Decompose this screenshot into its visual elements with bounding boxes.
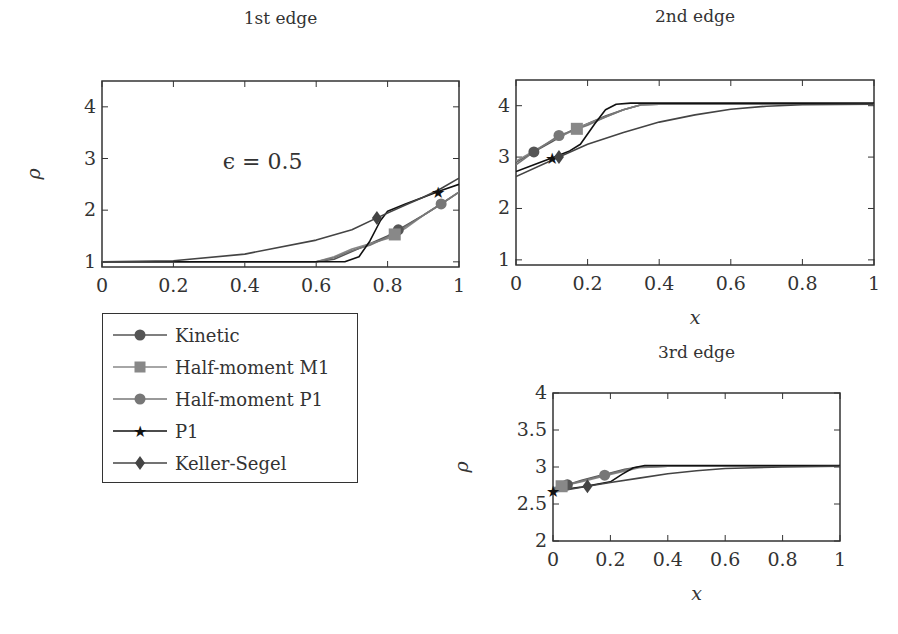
x-tick-label: 0.6	[716, 272, 746, 294]
legend-item-half-moment-p1: Half-moment P1	[111, 386, 323, 412]
x-axis-label: x	[690, 306, 701, 328]
legend-label: Kinetic	[175, 325, 240, 346]
y-tick-label: 4	[498, 94, 510, 116]
y-tick-label: 3.5	[517, 418, 547, 440]
square-marker-icon	[571, 123, 583, 135]
series-line	[553, 466, 840, 489]
series-line	[102, 184, 459, 261]
y-tick-label: 2	[535, 529, 547, 551]
legend: Kinetic Half-moment M1 Half-moment P1 ★ …	[102, 313, 358, 483]
legend-label: Half-moment P1	[175, 389, 323, 410]
x-tick-label: 0.4	[644, 272, 674, 294]
circle-marker-icon	[111, 389, 169, 409]
y-axis-label: ρ	[22, 168, 44, 181]
x-tick-label: 0.4	[653, 548, 683, 570]
y-tick-label: 1	[84, 250, 96, 272]
series-line	[516, 104, 874, 176]
epsilon-annotation: ϵ = 0.5	[223, 149, 303, 174]
x-tick-label: 0.6	[301, 274, 331, 296]
legend-label: P1	[175, 421, 199, 442]
legend-label: Half-moment M1	[175, 357, 329, 378]
x-tick-label: 1	[834, 548, 846, 570]
series-line	[516, 104, 874, 165]
plot-2: 00.20.40.60.8112342nd edgex★	[498, 6, 880, 328]
series-line	[516, 103, 874, 171]
circle-marker-icon	[599, 470, 610, 481]
axes-frame	[516, 80, 874, 265]
star-marker-icon: ★	[111, 421, 169, 441]
y-tick-label: 2.5	[517, 492, 547, 514]
series-line	[553, 466, 840, 492]
legend-item-kinetic: Kinetic	[111, 322, 240, 348]
axes-frame	[102, 81, 459, 267]
y-tick-label: 1	[498, 248, 510, 270]
x-tick-label: 0.6	[710, 548, 740, 570]
legend-item-half-moment-m1: Half-moment M1	[111, 354, 329, 380]
x-tick-label: 0.2	[595, 548, 625, 570]
y-tick-label: 3	[84, 147, 96, 169]
x-axis-label: x	[691, 582, 702, 604]
x-tick-label: 0.4	[230, 274, 260, 296]
plot-title: 1st edge	[244, 8, 318, 28]
square-marker-icon	[111, 357, 169, 377]
x-tick-label: 0.2	[158, 274, 188, 296]
y-tick-label: 4	[535, 381, 547, 403]
plot-1: 00.20.40.60.8112341st edgeρϵ = 0.5★	[22, 8, 465, 296]
y-tick-label: 3	[535, 455, 547, 477]
x-tick-label: 0.8	[787, 272, 817, 294]
series-line	[102, 192, 459, 262]
x-tick-label: 0.2	[572, 272, 602, 294]
legend-item-keller-segel: Keller-Segel	[111, 450, 286, 476]
series-line	[102, 178, 459, 262]
x-tick-label: 0.8	[767, 548, 797, 570]
legend-label: Keller-Segel	[175, 453, 286, 474]
diamond-marker-icon	[372, 211, 382, 225]
x-tick-label: 0	[96, 274, 108, 296]
y-tick-label: 2	[498, 196, 510, 218]
y-tick-label: 4	[84, 95, 96, 117]
series-line	[516, 104, 874, 162]
y-tick-label: 3	[498, 145, 510, 167]
plot-3: 00.20.40.60.8122.533.543rd edgexρ★	[450, 342, 846, 604]
y-tick-label: 2	[84, 198, 96, 220]
y-axis-label: ρ	[450, 461, 472, 474]
x-tick-label: 1	[868, 272, 880, 294]
svg-text:★: ★	[133, 422, 147, 441]
x-tick-label: 0.8	[372, 274, 402, 296]
square-marker-icon	[389, 228, 401, 240]
x-tick-label: 1	[453, 274, 465, 296]
plot-title: 2nd edge	[655, 6, 735, 26]
star-marker-icon: ★	[546, 482, 560, 501]
circle-marker-icon	[528, 146, 539, 157]
x-tick-label: 0	[510, 272, 522, 294]
circle-marker-icon	[553, 130, 564, 141]
legend-item-p1: ★ P1	[111, 418, 199, 444]
x-tick-label: 0	[547, 548, 559, 570]
plot-title: 3rd edge	[658, 342, 735, 362]
diamond-marker-icon	[111, 453, 169, 473]
circle-marker-icon	[111, 325, 169, 345]
star-marker-icon: ★	[431, 183, 445, 202]
